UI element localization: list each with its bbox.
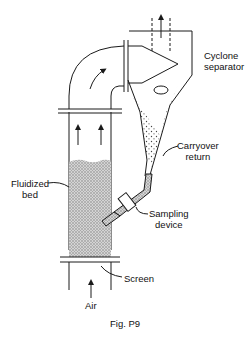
air-label: Air	[85, 300, 97, 311]
sampling-device-label: Sampling device	[149, 208, 189, 230]
cyclone-label: Cyclone separator	[204, 50, 244, 72]
carryover-return-tube	[114, 174, 152, 216]
fluidized-bed-fill	[69, 160, 111, 257]
figure-caption: Fig. P9	[110, 318, 140, 329]
screen-label: Screen	[124, 273, 154, 284]
fluidized-bed-label: Fluidized bed	[11, 178, 49, 200]
carryover-label: Carryover return	[177, 140, 219, 162]
